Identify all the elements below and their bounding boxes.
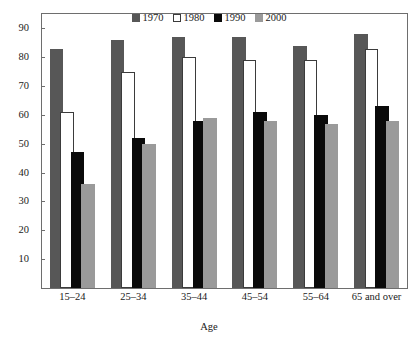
bar-chart: 1970198019902000 102030405060708090 15–2…: [0, 0, 418, 345]
bar-45–54-2000: [264, 121, 278, 288]
bar-55–64-2000: [325, 124, 339, 288]
bar-15–24-2000: [81, 184, 95, 288]
x-tick-label-1: 15–24: [59, 292, 85, 303]
bar-65-and-over-2000: [386, 121, 400, 288]
bar-group-1: [50, 14, 95, 288]
y-tick-label-90: 90: [19, 23, 30, 34]
y-axis-labels: 102030405060708090: [0, 13, 36, 289]
x-tick-label-4: 45–54: [242, 292, 268, 303]
y-tick-label-70: 70: [19, 81, 30, 92]
bar-25–34-2000: [142, 144, 156, 288]
x-tick-label-2: 25–34: [120, 292, 146, 303]
bar-group-6: [354, 14, 399, 288]
x-axis-labels: 15–2425–3435–4445–5455–6465 and over: [42, 292, 407, 312]
y-tick-label-50: 50: [19, 139, 30, 150]
x-tick-label-5: 55–64: [303, 292, 329, 303]
x-axis-title: Age: [0, 322, 418, 333]
y-tick-label-30: 30: [19, 196, 30, 207]
bar-35–44-2000: [203, 118, 217, 288]
bar-group-4: [232, 14, 277, 288]
y-tick-label-80: 80: [19, 52, 30, 63]
bars-layer: [42, 14, 407, 288]
bar-group-3: [172, 14, 217, 288]
y-tick-label-60: 60: [19, 110, 30, 121]
y-tick-label-20: 20: [19, 225, 30, 236]
bar-group-2: [111, 14, 156, 288]
x-tick-label-3: 35–44: [181, 292, 207, 303]
y-tick-label-10: 10: [19, 254, 30, 265]
x-tick-label-6: 65 and over: [352, 292, 402, 303]
bar-group-5: [293, 14, 338, 288]
y-tick-label-40: 40: [19, 167, 30, 178]
